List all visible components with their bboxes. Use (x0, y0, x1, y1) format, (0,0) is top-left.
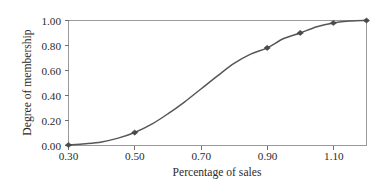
plot-background (68, 20, 367, 145)
x-tick-label: 0.70 (191, 150, 211, 162)
y-axis-tick-labels: 0.00 0.20 0.40 0.60 0.80 1.00 (41, 15, 61, 152)
figure-container: 0.00 0.20 0.40 0.60 0.80 1.00 0.30 0.50 … (0, 0, 387, 186)
x-axis-ticks (69, 146, 334, 150)
y-tick-label: 0.60 (41, 65, 61, 77)
y-tick-label: 0.40 (41, 90, 61, 102)
x-tick-label: 0.50 (125, 150, 145, 162)
y-tick-label: 0.20 (41, 115, 61, 127)
y-axis-ticks (65, 21, 69, 146)
y-tick-label: 0.80 (41, 40, 61, 52)
x-tick-label: 1.10 (324, 150, 344, 162)
x-tick-label: 0.90 (258, 150, 278, 162)
y-tick-label: 1.00 (41, 15, 61, 27)
membership-function-chart: 0.00 0.20 0.40 0.60 0.80 1.00 0.30 0.50 … (0, 0, 387, 186)
y-axis-title: Degree of membership (21, 29, 34, 135)
x-axis-tick-labels: 0.30 0.50 0.70 0.90 1.10 (59, 150, 344, 162)
x-axis-title: Percentage of sales (173, 166, 262, 179)
x-tick-label: 0.30 (59, 150, 79, 162)
